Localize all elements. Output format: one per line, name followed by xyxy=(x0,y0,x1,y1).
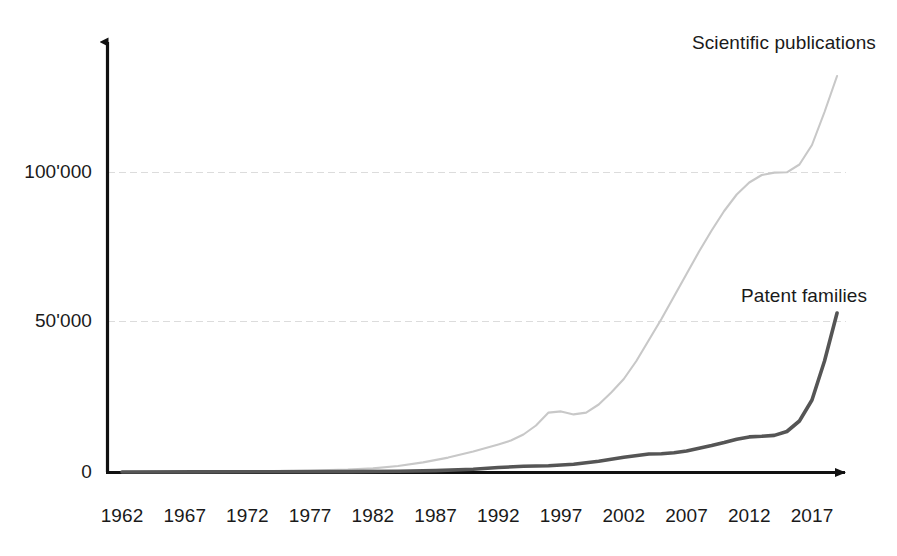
series-line-patent-families xyxy=(122,313,837,472)
x-tick-label-2002: 2002 xyxy=(594,505,654,527)
x-tick-label-1982: 1982 xyxy=(343,505,403,527)
chart-container: 100'000 50'000 0 19621967197219771982198… xyxy=(0,0,897,556)
x-tick-label-1962: 1962 xyxy=(92,505,152,527)
x-tick-label-1977: 1977 xyxy=(280,505,340,527)
x-tick-label-1992: 1992 xyxy=(468,505,528,527)
x-tick-label-1987: 1987 xyxy=(406,505,466,527)
x-tick-label-1967: 1967 xyxy=(155,505,215,527)
x-tick-label-2012: 2012 xyxy=(719,505,779,527)
y-tick-label-50000: 50'000 xyxy=(2,310,92,332)
x-tick-label-1997: 1997 xyxy=(531,505,591,527)
y-tick-label-100000: 100'000 xyxy=(2,161,92,183)
axes xyxy=(106,42,845,473)
series-line-scientific-publications xyxy=(122,76,837,472)
series-label-patent-families: Patent families xyxy=(741,285,867,307)
chart-plot-area xyxy=(0,0,897,556)
x-axis-tick-labels: 1962196719721977198219871992199720022007… xyxy=(107,505,867,535)
y-tick-label-0: 0 xyxy=(34,461,92,483)
x-tick-label-2007: 2007 xyxy=(657,505,717,527)
x-tick-label-1972: 1972 xyxy=(217,505,277,527)
series-label-scientific-publications: Scientific publications xyxy=(692,32,876,54)
x-tick-label-2017: 2017 xyxy=(782,505,842,527)
